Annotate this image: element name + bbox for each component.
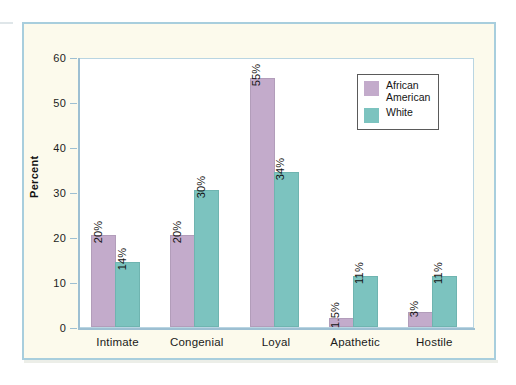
bar-value-label: 11%: [353, 262, 365, 284]
legend-item-white: White: [364, 107, 432, 123]
bar-value-label: 11%: [432, 262, 444, 284]
bar-value-label: 20%: [92, 221, 104, 244]
scan-edge-artifact: [0, 22, 13, 24]
bar-value-label: 3%: [408, 300, 420, 316]
bar: 3%: [408, 312, 433, 328]
y-axis-tick-mark: [70, 103, 77, 104]
legend-item-african-american: African American: [364, 80, 432, 103]
chart-screenshot: 20%14%20%30%55%34%1.5%11%3%11% 010203040…: [0, 0, 516, 385]
bar: 20%: [170, 235, 195, 327]
x-axis-category-label: Congenial: [157, 336, 236, 348]
x-axis-line: [78, 328, 475, 330]
bar: 55%: [250, 78, 275, 328]
bar: 20%: [91, 235, 116, 327]
bar-value-label: 30%: [195, 176, 207, 199]
bar: 14%: [115, 262, 140, 327]
y-axis-title: Percent: [28, 156, 40, 198]
chart-legend: African American White: [357, 74, 439, 130]
y-axis-tick-mark: [70, 283, 77, 284]
bar-value-label: 34%: [274, 158, 286, 181]
y-axis-tick-label: 60: [53, 52, 66, 64]
x-axis-category-label: Intimate: [78, 336, 157, 348]
bar-value-label: 20%: [171, 221, 183, 244]
bar-value-label: 1.5%: [329, 302, 341, 328]
bar: 11%: [432, 276, 457, 328]
y-axis-tick-label: 40: [53, 142, 66, 154]
bar: 11%: [353, 276, 378, 328]
legend-label-african-american: African American: [386, 80, 430, 103]
x-axis-category-label: Hostile: [395, 336, 474, 348]
bar: 1.5%: [329, 318, 354, 327]
y-axis-tick-label: 0: [60, 322, 66, 334]
bar: 34%: [274, 172, 299, 327]
y-axis-tick-label: 20: [53, 232, 66, 244]
figure-panel-shadow: [24, 360, 498, 363]
y-axis-tick-label: 50: [53, 97, 66, 109]
legend-label-white: White: [386, 107, 413, 119]
bar: 30%: [194, 190, 219, 327]
y-axis-tick-mark: [70, 193, 77, 194]
x-axis-category-label: Loyal: [236, 336, 315, 348]
y-axis-tick-mark: [70, 58, 77, 59]
y-axis-tick-mark: [70, 238, 77, 239]
bar-value-label: 55%: [250, 63, 262, 86]
legend-swatch-african-american: [364, 81, 379, 96]
y-axis-line: [78, 58, 80, 329]
bar-value-label: 14%: [116, 248, 128, 271]
y-axis-tick-mark: [70, 328, 77, 329]
y-axis-tick-label: 10: [53, 277, 66, 289]
x-axis-category-label: Apathetic: [316, 336, 395, 348]
legend-swatch-white: [364, 108, 379, 123]
y-axis-tick-label: 30: [53, 187, 66, 199]
y-axis-tick-mark: [70, 148, 77, 149]
